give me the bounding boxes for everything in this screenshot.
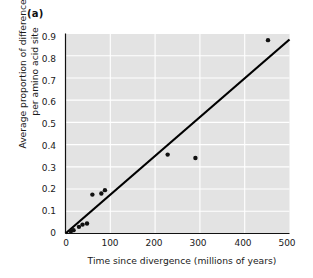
x-axis-title: Time since divergence (millions of years… [62, 255, 302, 266]
data-point [80, 222, 84, 226]
scatter-plot-canvas [0, 0, 313, 278]
data-point [99, 191, 103, 195]
data-point [165, 152, 169, 156]
data-point [193, 156, 197, 160]
data-point [90, 192, 94, 196]
data-point [85, 221, 89, 225]
figure-panel-a: (a) Average proportion of differences pe… [0, 0, 313, 278]
data-point [103, 188, 107, 192]
data-point [266, 38, 270, 42]
data-point [71, 228, 75, 232]
